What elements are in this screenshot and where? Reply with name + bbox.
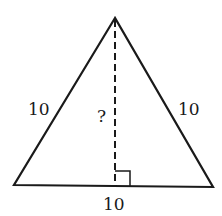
triangle-diagram: 10 10 10 ? <box>0 0 222 216</box>
right-angle-marker <box>115 171 130 186</box>
altitude-label: ? <box>97 106 106 126</box>
right-side-label: 10 <box>178 99 200 119</box>
base-label: 10 <box>103 194 125 214</box>
left-side-label: 10 <box>28 99 50 119</box>
